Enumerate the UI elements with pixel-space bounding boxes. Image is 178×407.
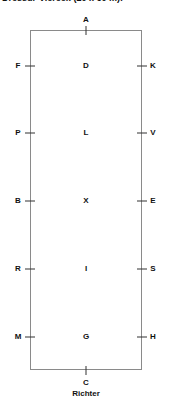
marker-center: X <box>83 197 88 205</box>
marker-left: F <box>16 62 21 70</box>
marker-left: R <box>15 265 21 273</box>
tick-right <box>137 201 147 202</box>
marker-right: V <box>150 129 155 137</box>
tick-left <box>25 133 35 134</box>
judge-label: Richter <box>72 390 100 398</box>
tick-right <box>137 337 147 338</box>
marker-right: S <box>150 265 155 273</box>
diagram-title: Dressur-Viereck (20 x 60 m): <box>2 0 123 3</box>
tick-right <box>137 269 147 270</box>
tick-left <box>25 66 35 67</box>
marker-center: I <box>85 265 87 273</box>
tick-c <box>86 366 87 375</box>
tick-left <box>25 201 35 202</box>
marker-right: K <box>150 62 156 70</box>
marker-a: A <box>83 16 89 24</box>
marker-right: E <box>150 197 155 205</box>
marker-right: H <box>150 333 156 341</box>
marker-center: D <box>83 62 89 70</box>
tick-right <box>137 66 147 67</box>
tick-left <box>25 269 35 270</box>
marker-left: P <box>15 129 20 137</box>
marker-center: G <box>83 333 89 341</box>
tick-left <box>25 337 35 338</box>
marker-c: C <box>83 379 89 387</box>
marker-left: B <box>15 197 21 205</box>
marker-left: M <box>15 333 22 341</box>
marker-center: L <box>84 129 89 137</box>
tick-a <box>86 26 87 35</box>
tick-right <box>137 133 147 134</box>
